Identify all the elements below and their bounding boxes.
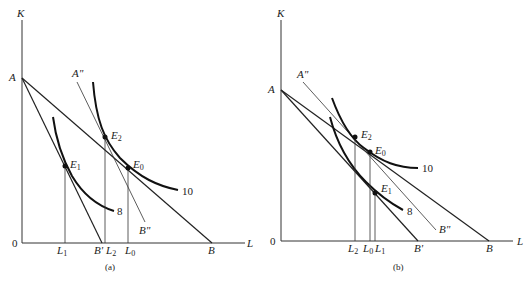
L1-tick: L1 (56, 244, 67, 258)
equilibrium-E0 (368, 150, 373, 155)
point-A2-label: A" (71, 67, 84, 79)
point-B1-label: B' (94, 244, 104, 256)
panel-a: K L 0 A A" B B' B" 10 8 E1 E2 E0 L1 L2 L… (8, 7, 253, 272)
equilibrium-E0 (126, 166, 131, 171)
equilibrium-E2 (353, 135, 358, 140)
E0-label: E0 (132, 158, 144, 172)
point-B2-label: B" (139, 224, 151, 236)
point-B-label: B (208, 244, 215, 256)
isocost-A2B2 (303, 82, 436, 230)
l-axis-label: L (516, 235, 523, 247)
origin-label: 0 (270, 235, 276, 247)
point-B1-label: B' (414, 242, 424, 254)
E1-label: E1 (380, 182, 392, 196)
k-axis-label: K (276, 7, 285, 19)
equilibrium-E2 (103, 135, 108, 140)
isocost-AB (22, 78, 212, 243)
caption-a: (a) (105, 262, 115, 272)
diagram-canvas: K L 0 A A" B B' B" 10 8 E1 E2 E0 L1 L2 L… (0, 0, 529, 283)
L2-tick: L2 (347, 242, 358, 256)
isocost-AB-prime (22, 78, 102, 243)
L0-tick: L0 (362, 242, 373, 256)
panel-b: K L 0 A A" B B' B" 10 8 E2 E0 E1 L2 L0 L… (267, 7, 523, 272)
point-B-label: B (486, 242, 493, 254)
caption-b: (b) (393, 262, 404, 272)
E0-label: E0 (374, 144, 386, 158)
L0-tick: L0 (124, 244, 135, 258)
isoquant-10-label: 10 (422, 162, 434, 174)
point-B2-label: B" (439, 223, 451, 235)
E2-label: E2 (110, 129, 122, 143)
point-A2-label: A" (296, 68, 309, 80)
isoquant-10-label: 10 (182, 185, 194, 197)
L2-tick: L2 (105, 244, 116, 258)
isocost-AB (281, 90, 489, 241)
L1-tick: L1 (374, 242, 385, 256)
isocost-A2B2 (77, 82, 145, 222)
k-axis-label: K (16, 7, 25, 19)
isoquant-8-label: 8 (407, 205, 413, 217)
origin-label: 0 (12, 237, 18, 249)
point-A-label: A (267, 83, 275, 95)
point-A-label: A (8, 71, 16, 83)
equilibrium-E1 (63, 164, 68, 169)
isoquant-8-label: 8 (117, 205, 123, 217)
equilibrium-E1 (373, 191, 378, 196)
E2-label: E2 (360, 128, 372, 142)
l-axis-label: L (246, 237, 253, 249)
E1-label: E1 (69, 158, 81, 172)
